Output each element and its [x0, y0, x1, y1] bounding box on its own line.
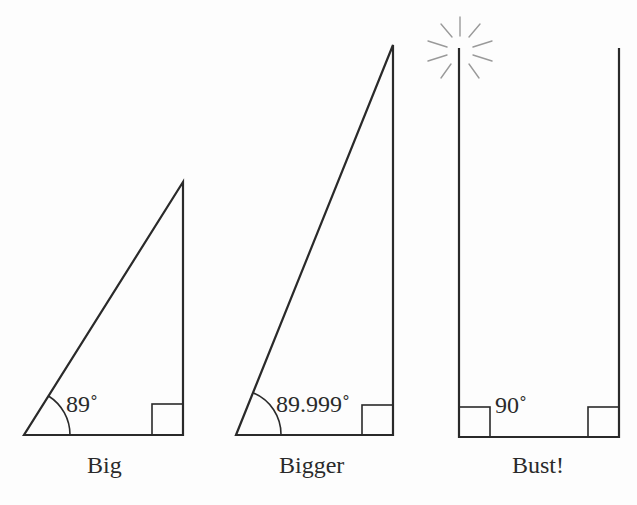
diagram-canvas: 89˚ Big 89.999˚ Bigger 90˚ Bust! — [0, 0, 637, 505]
figure-bust: 90˚ Bust! — [428, 17, 619, 478]
caption-big: Big — [87, 452, 122, 478]
figure-bigger: 89.999˚ Bigger — [236, 45, 393, 478]
right-angle-marker-right — [588, 407, 619, 437]
triangle-bigger — [236, 45, 393, 435]
right-angle-marker — [362, 405, 393, 435]
angle-label: 89.999˚ — [276, 391, 350, 417]
diagram-svg: 89˚ Big 89.999˚ Bigger 90˚ Bust! — [0, 0, 637, 505]
triangle-big — [24, 182, 183, 435]
right-angle-marker-left — [459, 407, 490, 437]
open-shape-bust — [459, 48, 619, 437]
right-angle-marker — [152, 404, 183, 435]
angle-label: 90˚ — [495, 392, 527, 418]
caption-bigger: Bigger — [279, 452, 344, 478]
angle-label: 89˚ — [66, 391, 98, 417]
caption-bust: Bust! — [512, 452, 564, 478]
figure-big: 89˚ Big — [24, 182, 183, 478]
